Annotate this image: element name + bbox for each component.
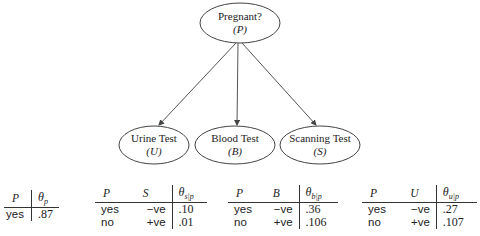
cell: yes [4,208,32,222]
header-theta: θs|p [172,185,207,203]
cell: yes [362,203,398,217]
node-symbol: (U) [146,145,161,157]
header-u: U [398,185,436,203]
cpt-scanning: P S θs|p yes −ve .10 no +ve .01 [95,185,207,229]
cpt-prior: P θp yes .87 [4,190,59,221]
cell: −ve [133,203,172,217]
cell-value: .27 [436,203,477,217]
edge-p-u [159,43,236,125]
header-b: B [263,185,299,203]
header-p: P [4,190,32,208]
node-label-blood: Blood Test (B) [195,132,275,158]
cell-value: .36 [299,203,338,217]
cell-value: .01 [172,216,207,229]
cell-value: .87 [32,208,60,222]
header-theta: θp [32,190,60,208]
cell-value: .106 [299,216,338,229]
edge-p-b [237,43,238,125]
cell-value: .107 [436,216,477,229]
cell: −ve [263,203,299,217]
header-theta: θu|p [436,185,477,203]
cell: no [228,216,263,229]
cell: no [95,216,133,229]
node-name: Urine Test [119,132,189,145]
node-label-scanning: Scanning Test (S) [280,132,360,158]
cell: +ve [133,216,172,229]
header-s: S [133,185,172,203]
cell: yes [95,203,133,217]
cell: yes [228,203,263,217]
node-symbol: (S) [314,145,327,157]
node-name: Scanning Test [280,132,360,145]
cell: no [362,216,398,229]
cpt-blood: P B θb|p yes −ve .36 no +ve .106 [228,185,338,229]
cpt-urine: P U θu|p yes −ve .27 no +ve .107 [362,185,477,229]
node-name: Pregnant? [200,10,280,23]
cell: −ve [398,203,436,217]
node-symbol: (B) [228,145,242,157]
header-p: P [362,185,398,203]
header-theta: θb|p [299,185,338,203]
header-p: P [228,185,263,203]
header-p: P [95,185,133,203]
node-name: Blood Test [195,132,275,145]
node-symbol: (P) [233,23,247,35]
cell-value: .10 [172,203,207,217]
cell: +ve [398,216,436,229]
edge-p-s [242,43,316,125]
cell: +ve [263,216,299,229]
node-label-pregnant: Pregnant? (P) [200,10,280,36]
node-label-urine: Urine Test (U) [119,132,189,158]
